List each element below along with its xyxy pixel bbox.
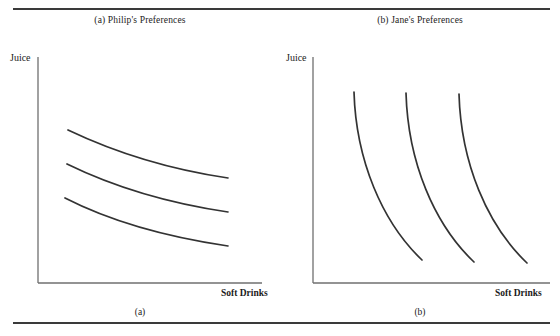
panel-a-indifference-curve-1: [68, 130, 228, 178]
panel-b-indifference-curve-2: [406, 93, 474, 262]
panel-b-y-axis-label: Juice: [286, 52, 307, 63]
panel-a-indifference-curve-3: [65, 198, 228, 246]
panel-b-title: (b) Jane's Preferences: [280, 15, 560, 25]
top-divider-rule: [13, 8, 550, 10]
panel-b-x-axis-label: Soft Drinks: [495, 288, 542, 298]
figure-container: (a) Philip's Preferences (b) Jane's Pref…: [0, 0, 560, 336]
panel-a-indifference-curve-2: [67, 164, 228, 212]
panel-b-indifference-curve-3: [459, 94, 527, 263]
panel-b-caption: (b): [280, 307, 560, 317]
panel-a-title: (a) Philip's Preferences: [0, 15, 280, 25]
panel-a-caption: (a): [0, 307, 280, 317]
panel-a-y-axis-label: Juice: [10, 52, 31, 63]
plot-canvas: [0, 0, 560, 336]
panel-b-indifference-curve-1: [354, 92, 422, 260]
bottom-divider-rule: [13, 322, 550, 324]
panel-a-x-axis-label: Soft Drinks: [221, 288, 268, 298]
